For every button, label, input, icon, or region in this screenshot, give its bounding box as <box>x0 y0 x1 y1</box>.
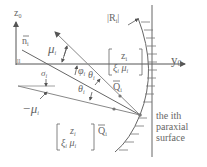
sigma-label: σi <box>41 69 47 79</box>
phi-label: φi <box>78 66 85 77</box>
surface-caption-line-2: paraxial <box>156 121 188 132</box>
radius-arrow <box>128 19 138 25</box>
phi-angle-arrow <box>75 66 77 75</box>
surface-hatching <box>119 22 157 150</box>
origin-mark: ll <box>17 58 20 64</box>
surface-caption-line-1: the ith <box>156 110 188 121</box>
neg-mu-prime-label: −μi <box>22 102 39 116</box>
Q-prime-label: Qi <box>98 126 107 137</box>
neg-mu-prime-arrow <box>40 92 47 99</box>
vector-top-xi-mu: ξi μi <box>113 63 128 74</box>
radius-label: |Ri| <box>107 13 119 24</box>
theta-prime-angle-arrow <box>90 92 92 100</box>
vector-bottom-xi-mu: ξi μi <box>61 138 76 149</box>
theta-label: θi <box>88 70 95 81</box>
point-Q <box>118 94 121 97</box>
Q-label: Qi <box>113 82 122 93</box>
surface-caption: the ith paraxial surface <box>156 110 188 143</box>
vector-bottom-z: zi <box>70 126 76 137</box>
vector-top-z: zi <box>121 51 127 62</box>
mu-label: μi <box>48 42 56 56</box>
mu-angle-arrow-2 <box>64 46 67 56</box>
y-axis-label: y0 <box>171 53 182 68</box>
normal-label: ni <box>22 36 29 47</box>
point-Q-prime <box>112 107 115 110</box>
surface-caption-line-3: surface <box>156 132 188 143</box>
theta-angle-arrow <box>95 79 100 85</box>
z-axis-label: z0 <box>14 8 21 19</box>
theta-prime-label: θi <box>78 84 85 95</box>
intersection-point <box>138 113 142 117</box>
